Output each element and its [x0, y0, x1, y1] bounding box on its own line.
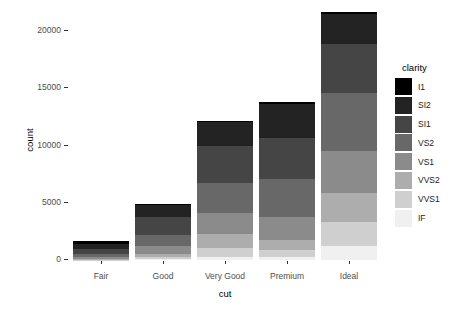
legend-label-vvs2: VVS2	[418, 175, 440, 185]
bar-segment-fair-vs2	[73, 254, 129, 257]
bar-segment-premium-i1	[259, 102, 315, 104]
x-axis-title: cut	[219, 288, 232, 299]
x-tick-mark-fair	[101, 261, 102, 264]
x-tick-mark-very-good	[225, 261, 226, 264]
legend-swatch-vvs1	[395, 191, 412, 208]
legend-item-vs1: VS1	[395, 153, 440, 170]
legend-item-vvs2: VVS2	[395, 172, 440, 189]
bar-segment-premium-si1	[259, 138, 315, 179]
legend-title: clarity	[402, 62, 440, 73]
bar-segment-premium-vvs1	[259, 250, 315, 257]
legend-item-si2: SI2	[395, 97, 440, 114]
legend-item-i1: I1	[395, 78, 440, 95]
stacked-bar-chart: 05000100001500020000 FairGoodVery GoodPr…	[0, 0, 466, 309]
bar-segment-ideal-vvs1	[321, 222, 377, 246]
bar-segment-very-good-i1	[197, 121, 253, 122]
legend-swatch-si2	[395, 97, 412, 114]
y-tick-mark-20000	[64, 30, 68, 31]
y-tick-mark-5000	[64, 202, 68, 203]
legend: clarity I1SI2SI1VS2VS1VVS2VVS1IF	[395, 62, 440, 228]
bar-segment-good-vvs1	[135, 257, 191, 259]
bar-segment-good-if	[135, 259, 191, 260]
bar-segment-good-vs2	[135, 235, 191, 246]
bar-segment-fair-i1	[73, 241, 129, 243]
bar-segment-very-good-vvs1	[197, 248, 253, 257]
bar-segment-premium-vs2	[259, 179, 315, 218]
bar-segment-fair-si2	[73, 244, 129, 249]
y-tick-mark-15000	[64, 87, 68, 88]
legend-label-vs2: VS2	[418, 138, 434, 148]
bar-segment-fair-vs1	[73, 257, 129, 259]
y-axis-title: count	[24, 128, 35, 151]
bar-segment-ideal-vs2	[321, 93, 377, 151]
legend-label-i1: I1	[418, 82, 425, 92]
bar-segment-ideal-si2	[321, 14, 377, 44]
bar-segment-ideal-si1	[321, 44, 377, 93]
y-tick-label-20000: 20000	[0, 26, 61, 35]
legend-label-vs1: VS1	[418, 157, 434, 167]
bar-segment-very-good-si1	[197, 146, 253, 183]
legend-item-vvs1: VVS1	[395, 191, 440, 208]
legend-label-si2: SI2	[418, 100, 431, 110]
legend-item-if: IF	[395, 210, 440, 227]
bar-segment-good-vs1	[135, 246, 191, 253]
legend-item-si1: SI1	[395, 116, 440, 133]
bar-segment-premium-si2	[259, 104, 315, 138]
y-tick-label-5000: 5000	[0, 198, 61, 207]
bar-segment-very-good-vvs2	[197, 234, 253, 248]
x-tick-label-ideal: Ideal	[309, 271, 389, 281]
x-tick-mark-ideal	[349, 261, 350, 264]
legend-label-vvs1: VVS1	[418, 194, 440, 204]
legend-swatch-vvs2	[395, 172, 412, 189]
y-tick-label-0: 0	[0, 255, 61, 264]
bar-segment-fair-si1	[73, 249, 129, 254]
y-tick-label-15000: 15000	[0, 83, 61, 92]
bar-segment-good-vvs2	[135, 254, 191, 257]
x-tick-mark-premium	[287, 261, 288, 264]
bar-segment-ideal-vvs2	[321, 193, 377, 223]
bar-segment-premium-vvs2	[259, 240, 315, 250]
bar-segment-good-i1	[135, 204, 191, 205]
legend-swatch-if	[395, 210, 412, 227]
bar-segment-fair-vvs2	[73, 259, 129, 260]
bar-segment-ideal-i1	[321, 12, 377, 14]
x-tick-mark-good	[163, 261, 164, 264]
bar-segment-premium-vs1	[259, 217, 315, 240]
bar-segment-very-good-vs1	[197, 213, 253, 233]
bar-segment-premium-if	[259, 257, 315, 260]
bar-segment-good-si1	[135, 217, 191, 235]
legend-label-if: IF	[418, 213, 426, 223]
bar-segment-good-si2	[135, 205, 191, 217]
legend-swatch-vs2	[395, 134, 412, 151]
bar-segment-very-good-if	[197, 257, 253, 260]
y-tick-mark-0	[64, 259, 68, 260]
y-tick-mark-10000	[64, 145, 68, 146]
bar-segment-ideal-vs1	[321, 151, 377, 192]
bar-segment-very-good-si2	[197, 122, 253, 146]
bar-segment-ideal-if	[321, 246, 377, 260]
legend-item-vs2: VS2	[395, 134, 440, 151]
legend-swatch-si1	[395, 116, 412, 133]
legend-swatch-vs1	[395, 153, 412, 170]
legend-items: I1SI2SI1VS2VS1VVS2VVS1IF	[395, 78, 440, 227]
legend-label-si1: SI1	[418, 119, 431, 129]
bar-segment-very-good-vs2	[197, 183, 253, 213]
legend-swatch-i1	[395, 78, 412, 95]
